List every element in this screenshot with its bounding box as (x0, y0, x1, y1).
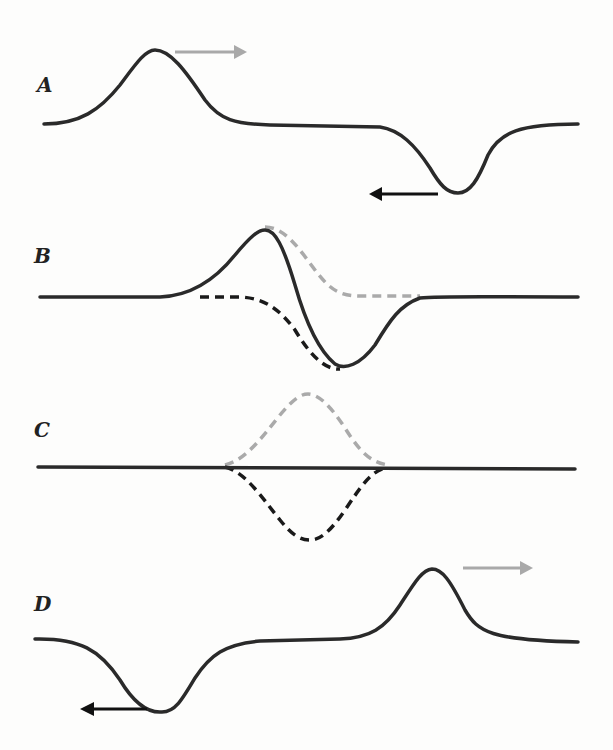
panel-d-wave (35, 569, 578, 712)
left-arrowhead-icon (369, 187, 382, 201)
panel-c-graphic (38, 394, 575, 540)
panel-label-a: A (37, 73, 53, 97)
panel-a-wave (44, 50, 578, 193)
wave-superposition-diagram (0, 0, 613, 750)
panel-c-black-dashed-pulse (225, 467, 385, 540)
panel-c-flat-wave (38, 467, 575, 469)
panel-label-c: C (34, 418, 50, 442)
panel-a-graphic (44, 45, 578, 201)
panel-c-gray-dashed-pulse (225, 394, 388, 465)
left-arrowhead-icon (80, 702, 94, 716)
right-arrowhead-icon (234, 45, 247, 59)
panel-b-graphic (40, 227, 578, 369)
panel-b-sum-wave (40, 230, 578, 366)
right-arrowhead-icon (520, 561, 533, 575)
panel-d-graphic (35, 561, 578, 716)
panel-label-b: B (34, 244, 51, 268)
panel-b-black-dashed-pulse (200, 297, 340, 369)
panel-label-d: D (34, 592, 51, 616)
